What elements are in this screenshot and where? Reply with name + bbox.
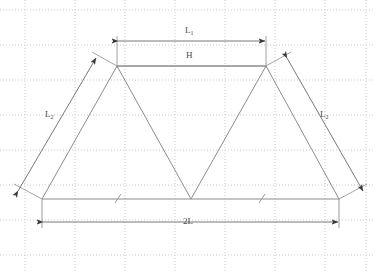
dimension-left-slope <box>14 52 117 199</box>
dimension-label-left-slope: L2 <box>45 110 54 119</box>
zigzag-profile <box>42 66 339 199</box>
witness-line-lower <box>14 184 42 199</box>
witness-line-lower <box>339 184 367 199</box>
diagram-root: L1 H L2 L2 2L <box>0 0 375 273</box>
dimension-right-slope <box>266 52 367 199</box>
dimension-label-top-span: L1 <box>185 26 194 35</box>
diagram-canvas <box>0 0 375 273</box>
dimension-label-base-span: 2L <box>183 217 193 226</box>
dimension-label-right-slope: L2 <box>320 110 329 119</box>
dimension-label-height-ref: H <box>186 51 193 60</box>
profile-outline <box>42 66 339 199</box>
